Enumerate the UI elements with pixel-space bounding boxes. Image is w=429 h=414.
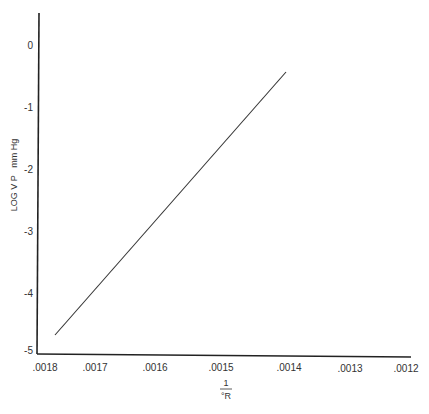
x-tick-label: .0012	[393, 363, 418, 374]
y-tick-label: -5	[24, 345, 33, 356]
y-tick-labels: 0 -1 -2 -3 -4 -5	[24, 40, 33, 356]
y-tick-label: 0	[27, 40, 33, 51]
x-tick-label: .0017	[82, 362, 107, 373]
data-line	[55, 72, 286, 335]
y-tick-label: -4	[24, 288, 33, 299]
y-tick-label: -3	[24, 226, 33, 237]
x-tick-label: .0015	[208, 362, 233, 373]
x-tick-label: .0016	[142, 362, 167, 373]
x-tick-label: .0014	[276, 362, 301, 373]
x-axis-label: 1 °R	[220, 378, 232, 401]
y-tick-label: -2	[24, 164, 33, 175]
x-tick-label: .0018	[32, 362, 57, 373]
chart: 0 -1 -2 -3 -4 -5 .0018 .0017 .0016 .0015…	[0, 0, 429, 414]
x-axis-label-denominator: °R	[221, 391, 232, 401]
x-axis	[37, 354, 411, 357]
y-tick-label: -1	[24, 102, 33, 113]
y-axis-label: LOG V P mm Hg	[9, 139, 19, 211]
x-tick-label: .0013	[337, 363, 362, 374]
y-axis	[37, 13, 39, 354]
x-tick-labels: .0018 .0017 .0016 .0015 .0014 .0013 .001…	[32, 362, 418, 374]
x-axis-label-numerator: 1	[223, 378, 228, 388]
